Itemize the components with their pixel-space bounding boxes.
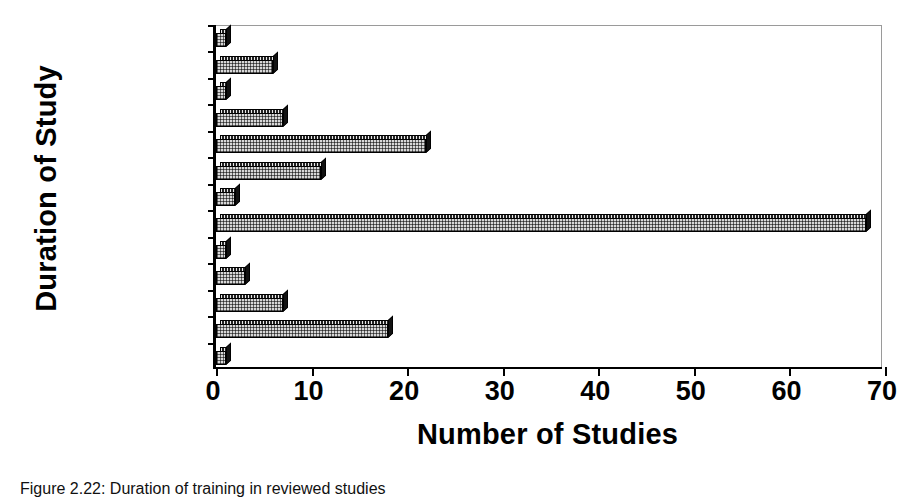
y-axis-tick [208,316,216,318]
x-axis-tick [312,367,314,376]
x-axis-tick [789,367,791,376]
x-axis-tick-label: 0 [183,376,243,407]
bar [216,320,394,338]
y-axis-tick [208,131,216,133]
bar-front-face [216,271,245,285]
bar-front-face [216,139,426,153]
bar [216,82,232,100]
x-axis-tick [216,367,218,376]
bar-front-face [216,33,226,47]
bar-top-face [220,162,325,167]
bar-front-face [216,298,283,312]
bar-side-face [245,263,250,286]
bar-side-face [226,342,231,365]
y-axis-title: Duration of Study [30,19,63,359]
bar-top-face [220,135,430,140]
bar-front-face [216,86,226,100]
y-axis-tick [208,263,216,265]
y-axis-tick [208,157,216,159]
x-axis-tick-label: 20 [374,376,434,407]
x-axis-tick [407,367,409,376]
x-axis-tick [694,367,696,376]
plot-top-border [216,25,882,26]
bar-side-face [321,157,326,180]
bar-top-face [220,320,392,325]
bar-side-face [226,236,231,259]
bar [216,294,289,312]
plot-area: 10 minutes20 minutes1 hour3 hours5 hours… [213,25,882,369]
x-axis-tick [598,367,600,376]
bar [216,214,872,232]
x-axis-tick-label: 30 [470,376,530,407]
bar [216,347,232,365]
bar-side-face [235,183,240,206]
bar [216,135,432,153]
bar-side-face [273,51,278,74]
y-axis-tick [208,210,216,212]
bar-side-face [283,104,288,127]
x-axis-tick-label: 40 [565,376,625,407]
y-axis-tick [208,290,216,292]
y-axis-tick [208,104,216,106]
x-axis-tick [885,367,887,376]
bar [216,56,279,74]
figure-container: Duration of Study 10 minutes20 minutes1 … [0,0,915,501]
x-axis-tick-label: 50 [661,376,721,407]
bar-front-face [216,218,866,232]
bar-side-face [388,316,393,339]
bar-side-face [426,131,431,154]
bar-top-face [220,214,870,219]
bar [216,241,232,259]
bar [216,267,251,285]
x-axis-tick [503,367,505,376]
y-axis-tick [208,343,216,345]
y-axis-tick [208,184,216,186]
bar-top-face [220,294,287,299]
bar [216,29,232,47]
y-axis-tick [208,78,216,80]
bar-top-face [220,56,277,61]
bar [216,188,241,206]
bar-front-face [216,351,226,365]
plot-right-border [881,25,882,367]
bar-front-face [216,192,235,206]
bar-side-face [226,25,231,48]
x-axis-tick-label: 60 [756,376,816,407]
bar-front-face [216,245,226,259]
y-axis-tick [208,25,216,27]
bar [216,109,289,127]
y-axis-tick [208,51,216,53]
y-axis-tick [208,237,216,239]
bar-top-face [220,109,287,114]
x-axis-tick-label: 10 [279,376,339,407]
bar [216,162,327,180]
bar-front-face [216,60,273,74]
bar-front-face [216,166,321,180]
bar-side-face [226,78,231,101]
bar-front-face [216,113,283,127]
bar-front-face [216,324,388,338]
bar-side-face [283,289,288,312]
x-axis-tick-label: 70 [852,376,912,407]
x-axis-title: Number of Studies [213,418,882,451]
bar-side-face [866,210,871,233]
figure-caption: Figure 2.22: Duration of training in rev… [20,480,386,498]
